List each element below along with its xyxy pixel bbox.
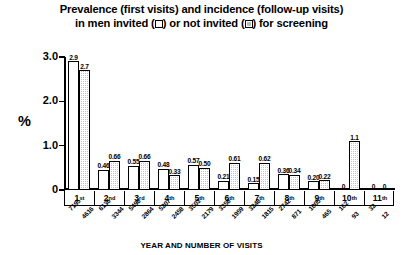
visit-count-8th-filled: 871 (290, 208, 302, 220)
bar-6th-filled (229, 163, 239, 190)
bar-2nd-open (98, 170, 108, 190)
bar-9th-filled (319, 180, 329, 190)
visit-count-9th-filled: 465 (320, 208, 332, 220)
visit-count-6th-filled: 1959 (230, 205, 245, 220)
bar-group-3rd: 0.550.66 (124, 57, 154, 190)
bar-value-label-4th-filled: 0.33 (166, 168, 184, 175)
bar-3rd-filled (139, 161, 149, 190)
y-axis-tick-labels: 01.02.03.0 (0, 57, 58, 190)
bar-6th-open (218, 181, 228, 190)
bar-1st-open (68, 61, 78, 190)
bar-value-label-1st-open: 2.9 (65, 54, 83, 61)
visit-count-3rd-filled: 2864 (140, 205, 155, 220)
bar-group-8th: 0.360.34 (274, 57, 304, 190)
bar-value-label-8th-filled: 0.34 (286, 167, 304, 174)
visit-count-1st-filled: 4616 (80, 205, 95, 220)
bar-group-6th: 0.210.61 (214, 57, 244, 190)
bar-5th-filled (199, 168, 209, 190)
bar-value-label-9th-filled: 0.22 (316, 173, 334, 180)
bar-7th-filled (259, 163, 269, 190)
bar-value-label-3rd-filled: 0.66 (136, 153, 154, 160)
bar-value-label-5th-filled: 0.50 (196, 160, 214, 167)
bar-2nd-filled (109, 161, 119, 190)
bar-value-label-11th-filled: 0 (376, 183, 394, 190)
visit-count-11th-filled: 12 (380, 210, 390, 220)
bar-group-9th: 0.200.22 (304, 57, 334, 190)
bar-7th-open (248, 183, 258, 190)
visit-count-7th-filled: 1815 (260, 205, 275, 220)
bar-group-5th: 0.570.50 (184, 57, 214, 190)
y-tick-label-3.0: 3.0 (43, 50, 58, 62)
chart-title-line-2-part-2: ) or not invited ( (163, 17, 245, 29)
visit-count-5th-filled: 2179 (200, 205, 215, 220)
bar-groups: 2.92.70.460.660.550.660.480.330.570.500.… (64, 57, 394, 190)
chart-title-line-2-part-3: ) for screening (253, 17, 328, 29)
bar-group-7th: 0.150.62 (244, 57, 274, 190)
bar-group-10th: 01.1 (334, 57, 364, 190)
chart-title-line-2: in men invited () or not invited () for … (0, 17, 403, 31)
bar-1st-filled (79, 70, 89, 190)
visit-count-labels: 7195461661363344549828645207245835032179… (64, 206, 403, 240)
bar-value-label-7th-filled: 0.62 (256, 155, 274, 162)
chart-title-line-2-part-1: in men invited ( (75, 17, 155, 29)
y-tick-label-2.0: 2.0 (43, 94, 58, 106)
bar-group-2nd: 0.460.66 (94, 57, 124, 190)
bar-group-11th: 00 (364, 57, 394, 190)
bar-5th-open (188, 165, 198, 190)
bar-group-1st: 2.92.7 (64, 57, 94, 190)
visit-count-4th-filled: 2458 (170, 205, 185, 220)
visit-count-10th-filled: 93 (350, 210, 360, 220)
bar-3rd-open (128, 166, 138, 190)
bar-value-label-2nd-filled: 0.66 (106, 153, 124, 160)
bar-8th-open (278, 174, 288, 190)
bar-10th-filled (349, 141, 359, 190)
bar-value-label-10th-filled: 1.1 (346, 134, 364, 141)
bar-9th-open (308, 181, 318, 190)
chart-figure: Prevalence (first visits) and incidence … (0, 0, 403, 255)
y-tick-label-1.0: 1.0 (43, 139, 58, 151)
hatched-square-symbol (245, 20, 253, 28)
x-axis-title: YEAR AND NUMBER OF VISITS (0, 241, 403, 250)
bar-4th-filled (169, 175, 179, 190)
chart-title: Prevalence (first visits) and incidence … (0, 3, 403, 30)
visit-count-2nd-filled: 3344 (110, 205, 125, 220)
bar-group-4th: 0.480.33 (154, 57, 184, 190)
y-tick-label-0: 0 (52, 183, 58, 195)
bar-value-label-6th-filled: 0.61 (226, 155, 244, 162)
bar-value-label-1st-filled: 2.7 (76, 63, 94, 70)
bar-8th-filled (289, 175, 299, 190)
chart-title-line-1: Prevalence (first visits) and incidence … (0, 3, 403, 17)
open-square-symbol (155, 20, 163, 28)
